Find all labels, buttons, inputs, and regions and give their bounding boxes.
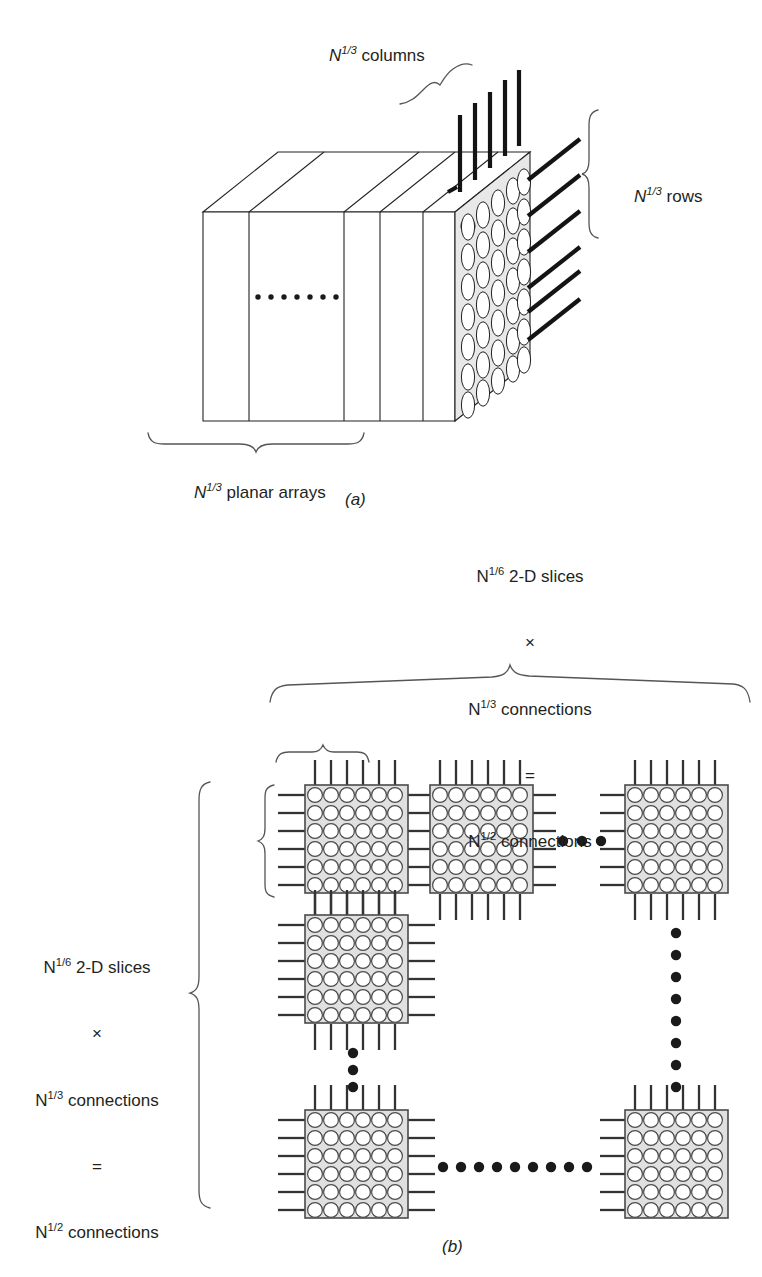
label-panel-b-left-line1: N1/6 2-D slices (8, 957, 186, 979)
label-planar-exponent: 1/3 (206, 481, 222, 493)
top-line1-text: 2-D slices (504, 567, 583, 586)
module-bottom-left (278, 1085, 435, 1218)
label-panel-b-top-line2: × (400, 632, 660, 654)
label-planar-arrays: N1/3 planar arrays (175, 459, 326, 527)
left-line5-base: N (35, 1223, 47, 1242)
module-middle-left (278, 890, 435, 1050)
label-panel-b-left-line5: N1/2 connections (8, 1222, 186, 1244)
top-line3-text: connections (496, 700, 591, 719)
left-line5-text: connections (63, 1223, 158, 1242)
label-panel-b-left: N1/6 2-D slices × N1/3 connections = N1/… (8, 913, 186, 1277)
box-front-face (203, 212, 455, 421)
label-planar-base: N (194, 483, 206, 502)
top-line3-exponent: 1/3 (481, 698, 497, 710)
label-columns: N1/3 columns (310, 22, 425, 90)
brace-planar-arrays (148, 433, 364, 452)
top-line5-base: N (468, 832, 480, 851)
left-line5-exponent: 1/2 (48, 1222, 64, 1234)
ellipsis-bottom-row (438, 1162, 592, 1172)
label-planar-text: planar arrays (222, 483, 326, 502)
brace-panel-b-left-small (258, 785, 274, 897)
label-panel-b-top: N1/6 2-D slices × N1/3 connections = N1/… (400, 522, 660, 898)
label-columns-base: N (329, 46, 341, 65)
panel-a-right-connections (528, 139, 580, 340)
top-line1-base: N (476, 567, 488, 586)
brace-panel-b-left (190, 782, 210, 1208)
brace-rows (582, 110, 598, 238)
top-line5-exponent: 1/2 (481, 831, 497, 843)
label-rows-text: rows (662, 187, 703, 206)
caption-panel-b: (b) (442, 1237, 463, 1257)
label-panel-b-left-line4: = (8, 1156, 186, 1178)
module-bottom-right (600, 1085, 728, 1218)
left-line3-text: connections (63, 1091, 158, 1110)
label-rows: N1/3 rows (615, 163, 702, 231)
label-panel-b-top-line4: = (400, 765, 660, 787)
label-rows-exponent: 1/3 (646, 185, 662, 197)
left-line1-text: 2-D slices (71, 958, 150, 977)
label-columns-exponent: 1/3 (341, 44, 357, 56)
left-line1-base: N (43, 958, 55, 977)
label-columns-text: columns (357, 46, 425, 65)
top-line3-base: N (468, 700, 480, 719)
caption-panel-a: (a) (345, 490, 366, 510)
label-rows-base: N (634, 187, 646, 206)
top-line1-exponent: 1/6 (489, 566, 505, 578)
label-panel-b-top-line1: N1/6 2-D slices (400, 566, 660, 588)
ellipsis-right-column (671, 928, 681, 1092)
figure-root: N1/3 columns N1/3 rows N1/3 planar array… (0, 0, 762, 1277)
label-panel-b-top-line3: N1/3 connections (400, 699, 660, 721)
left-line1-exponent: 1/6 (56, 957, 72, 969)
ellipsis-left-column (348, 1048, 358, 1092)
left-line3-exponent: 1/3 (48, 1089, 64, 1101)
panel-a-graphic (148, 64, 598, 452)
top-line5-text: connections (496, 832, 591, 851)
brace-panel-b-top-small (276, 745, 369, 762)
label-panel-b-left-line3: N1/3 connections (8, 1090, 186, 1112)
label-panel-b-left-line2: × (8, 1023, 186, 1045)
label-panel-b-top-line5: N1/2 connections (400, 831, 660, 853)
left-line3-base: N (35, 1091, 47, 1110)
